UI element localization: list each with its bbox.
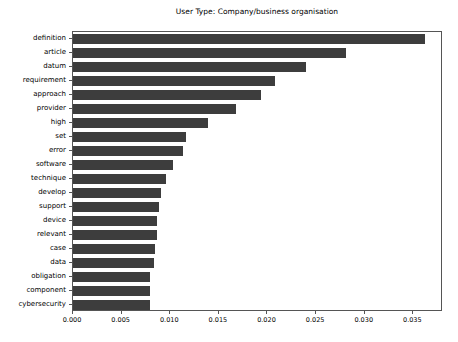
x-tick-label-0.020: 0.020 [257, 316, 276, 324]
y-tick-mark [69, 94, 72, 95]
y-tick-mark [69, 206, 72, 207]
y-tick-mark [69, 304, 72, 305]
bar-row [73, 258, 441, 268]
y-tick-mark [69, 136, 72, 137]
plot-axes [72, 31, 442, 311]
bar-row [73, 244, 441, 254]
bar-row [73, 48, 441, 58]
y-tick-label-software: software [36, 159, 66, 169]
bar-data [73, 258, 154, 268]
bar-definition [73, 34, 425, 44]
bars-container [73, 32, 441, 310]
bar-error [73, 146, 183, 156]
bar-row [73, 230, 441, 240]
bar-row [73, 146, 441, 156]
y-tick-label-approach: approach [33, 89, 66, 99]
x-tick-mark [315, 311, 316, 314]
y-tick-mark [69, 178, 72, 179]
y-tick-label-support: support [39, 201, 66, 211]
y-tick-label-requirement: requirement [23, 75, 66, 85]
y-tick-label-develop: develop [38, 187, 66, 197]
bar-relevant [73, 230, 157, 240]
bar-row [73, 300, 441, 310]
y-tick-label-error: error [49, 145, 66, 155]
y-tick-label-high: high [51, 117, 66, 127]
bar-case [73, 244, 155, 254]
y-tick-mark [69, 108, 72, 109]
y-tick-label-article: article [44, 47, 66, 57]
y-tick-mark [69, 80, 72, 81]
y-tick-label-data: data [50, 257, 66, 267]
y-tick-label-component: component [26, 285, 66, 295]
y-tick-label-set: set [55, 131, 66, 141]
bar-requirement [73, 76, 275, 86]
bar-high [73, 118, 208, 128]
x-tick-label-0.025: 0.025 [306, 316, 325, 324]
bar-row [73, 76, 441, 86]
bar-component [73, 286, 150, 296]
bar-row [73, 174, 441, 184]
bar-row [73, 272, 441, 282]
x-tick-label-0.010: 0.010 [160, 316, 179, 324]
y-tick-mark [69, 248, 72, 249]
x-tick-label-0.000: 0.000 [63, 316, 82, 324]
y-tick-label-provider: provider [37, 103, 66, 113]
bar-row [73, 286, 441, 296]
y-tick-mark [69, 220, 72, 221]
bar-cybersecurity [73, 300, 150, 310]
y-tick-mark [69, 66, 72, 67]
x-tick-mark [218, 311, 219, 314]
bar-article [73, 48, 346, 58]
bar-row [73, 132, 441, 142]
bar-support [73, 202, 159, 212]
bar-datum [73, 62, 306, 72]
y-tick-label-obligation: obligation [31, 271, 66, 281]
y-tick-mark [69, 164, 72, 165]
bar-row [73, 216, 441, 226]
x-tick-mark [121, 311, 122, 314]
bar-row [73, 202, 441, 212]
y-tick-mark [69, 150, 72, 151]
y-tick-mark [69, 52, 72, 53]
x-tick-label-0.015: 0.015 [209, 316, 228, 324]
x-tick-mark [266, 311, 267, 314]
bar-develop [73, 188, 161, 198]
bar-set [73, 132, 186, 142]
bar-row [73, 188, 441, 198]
x-tick-mark [72, 311, 73, 314]
y-tick-label-definition: definition [33, 33, 66, 43]
chart-figure: User Type: Company/business organisation… [0, 0, 458, 342]
bar-technique [73, 174, 166, 184]
x-tick-label-0.035: 0.035 [403, 316, 422, 324]
chart-title: User Type: Company/business organisation [72, 7, 442, 16]
bar-obligation [73, 272, 150, 282]
y-tick-mark [69, 262, 72, 263]
x-tick-label-0.030: 0.030 [354, 316, 373, 324]
y-tick-label-datum: datum [43, 61, 66, 71]
y-tick-mark [69, 192, 72, 193]
bar-provider [73, 104, 236, 114]
y-tick-mark [69, 234, 72, 235]
bar-software [73, 160, 173, 170]
y-tick-label-cybersecurity: cybersecurity [18, 299, 66, 309]
bar-row [73, 62, 441, 72]
y-tick-mark [69, 276, 72, 277]
y-tick-label-technique: technique [31, 173, 66, 183]
x-tick-mark [364, 311, 365, 314]
bar-row [73, 34, 441, 44]
x-tick-label-0.005: 0.005 [111, 316, 130, 324]
y-tick-mark [69, 38, 72, 39]
y-tick-label-case: case [50, 243, 66, 253]
y-tick-label-relevant: relevant [37, 229, 66, 239]
bar-row [73, 104, 441, 114]
bar-row [73, 118, 441, 128]
y-tick-mark [69, 290, 72, 291]
y-tick-label-device: device [43, 215, 66, 225]
x-tick-mark [169, 311, 170, 314]
bar-approach [73, 90, 261, 100]
bar-row [73, 90, 441, 100]
bar-device [73, 216, 157, 226]
bar-row [73, 160, 441, 170]
x-tick-mark [412, 311, 413, 314]
y-tick-mark [69, 122, 72, 123]
